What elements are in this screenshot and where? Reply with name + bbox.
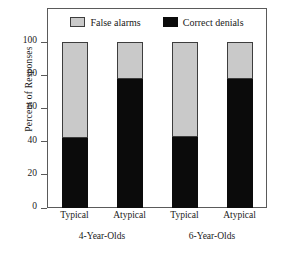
x-group-label: 6-Year-Olds [157,231,267,241]
bar-segment-correct-denials [172,137,198,208]
x-tick-label: Atypical [100,210,160,220]
y-tick-label: 60 [28,101,38,111]
plot-area [47,42,267,208]
x-tick-label: Atypical [210,210,270,220]
y-tick-label: 100 [23,35,37,45]
legend-label: False alarms [90,17,140,28]
bar-segment-false-alarms [117,42,143,79]
chart-figure: Percent of Responses 020406080100 False … [0,0,287,259]
bar-segment-false-alarms [172,42,198,137]
legend-swatch-icon [163,17,178,27]
chart-legend: False alarmsCorrect denials [47,14,267,30]
bar-segment-correct-denials [227,79,253,208]
x-tick-label: Typical [155,210,215,220]
legend-swatch-icon [70,17,85,27]
bar-segment-false-alarms [62,42,88,138]
y-tick-label: 20 [28,168,38,178]
y-axis-title: Percent of Responses [24,9,34,169]
legend-entry: Correct denials [163,17,244,28]
bar-segment-correct-denials [62,138,88,208]
y-tick-label: 0 [32,201,37,211]
bar-segment-correct-denials [117,79,143,208]
bar-segment-false-alarms [227,42,253,79]
stacked-bar [227,42,253,208]
y-tick-label: 80 [28,68,38,78]
legend-label: Correct denials [183,17,244,28]
x-tick-label: Typical [45,210,105,220]
stacked-bar [117,42,143,208]
x-group-label: 4-Year-Olds [47,231,157,241]
stacked-bar [172,42,198,208]
legend-entry: False alarms [70,17,140,28]
stacked-bar [62,42,88,208]
y-tick-label: 40 [28,135,38,145]
